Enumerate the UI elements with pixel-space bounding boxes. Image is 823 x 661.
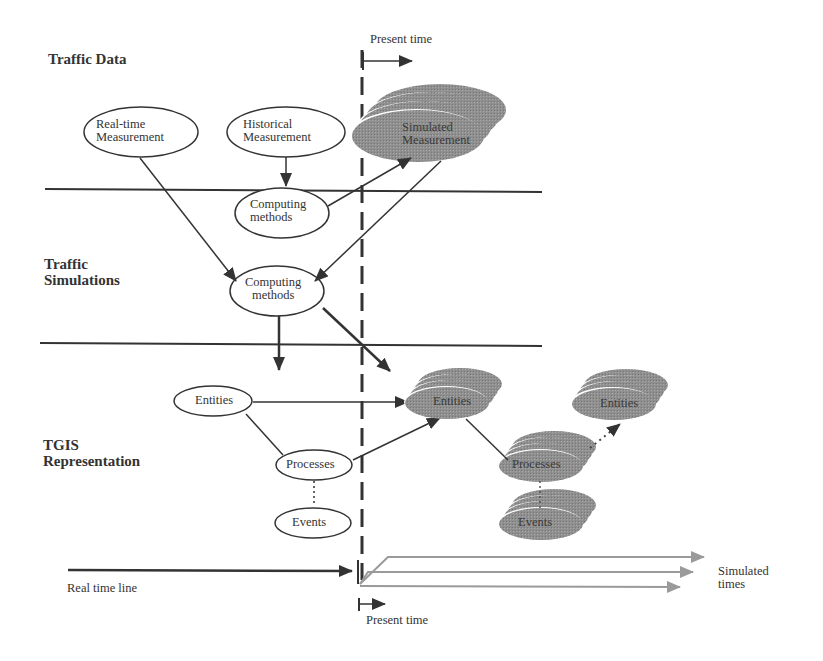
node-sim-entities-2 [570, 369, 668, 420]
label-realtime-line2: Measurement [96, 131, 164, 144]
simulated-time-arrow-1 [360, 557, 704, 584]
label-sim-processes: Processes [512, 458, 561, 471]
label-present-time-bottom: Present time [366, 614, 428, 627]
label-events: Events [292, 516, 326, 529]
section-tgis-line2: Representation [43, 454, 140, 470]
arrow-realtime-to-computing [140, 158, 236, 281]
section-traffic-simulations-line1: Traffic [44, 257, 120, 273]
label-historical-line2: Measurement [243, 131, 311, 144]
arrow-computing-to-sim-entities [323, 308, 390, 371]
link-entities-processes [246, 414, 283, 455]
section-traffic-data: Traffic Data [48, 52, 126, 68]
real-time-line-arrow [68, 570, 352, 571]
simulated-time-arrow-2 [360, 572, 693, 584]
label-sim-entities-1: Entities [433, 395, 471, 408]
label-sim-events: Events [518, 516, 552, 529]
section-traffic-simulations-line2: Simulations [44, 273, 120, 289]
label-simulated-times: Simulated times [718, 565, 769, 591]
label-computing-2-line2: methods [245, 289, 301, 302]
separator-line-2 [40, 343, 542, 346]
label-realtime-measurement: Real-time Measurement [96, 118, 164, 144]
simulated-time-arrow-3 [360, 586, 680, 587]
label-historical-measurement: Historical Measurement [243, 118, 311, 144]
section-traffic-simulations: Traffic Simulations [44, 257, 120, 289]
section-tgis-line1: TGIS [43, 438, 140, 454]
label-simulated-times-line2: times [718, 578, 769, 591]
section-tgis-representation: TGIS Representation [43, 438, 140, 470]
label-sim-entities-2: Entities [600, 397, 638, 410]
label-computing-methods-1: Computing methods [250, 198, 306, 224]
label-computing-1-line2: methods [250, 211, 306, 224]
diagram-canvas [0, 0, 823, 661]
label-simulated-line2: Measurement [402, 134, 470, 147]
arrow-computing-to-simulated [328, 158, 411, 206]
label-processes: Processes [286, 458, 335, 471]
label-present-time-top: Present time [370, 33, 432, 46]
arrow-simulated-to-computing [315, 161, 441, 281]
arrow-processes-to-sim-entities [353, 418, 440, 460]
label-simulated-measurement: Simulated Measurement [402, 121, 470, 147]
label-real-time-line: Real time line [67, 582, 137, 595]
label-computing-methods-2: Computing methods [245, 276, 301, 302]
link-sim-entities-processes [466, 419, 508, 460]
label-entities: Entities [195, 394, 233, 407]
